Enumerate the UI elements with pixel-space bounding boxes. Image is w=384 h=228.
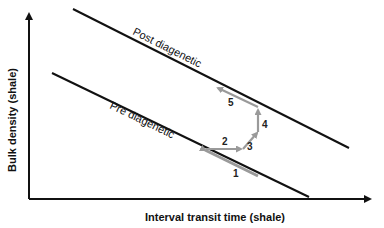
step-5-arrow [218, 88, 258, 107]
step-3-label: 3 [247, 141, 253, 152]
step-1-label: 1 [233, 168, 239, 179]
pre-diagenetic-line [52, 73, 309, 197]
y-axis-title: Bulk density (shale) [6, 68, 18, 172]
post-diagenetic-label: Post diagenetic [131, 25, 204, 70]
step-5-label: 5 [228, 97, 234, 108]
step-4-label: 4 [262, 119, 268, 130]
pre-diagenetic-label: Pre diagenetic [108, 99, 177, 141]
step-1-arrow [205, 150, 258, 176]
post-diagenetic-line [73, 9, 349, 148]
diagenesis-diagram: Post diagenetic Pre diagenetic 1 2 3 4 5… [0, 0, 384, 228]
x-axis-title: Interval transit time (shale) [145, 211, 285, 223]
step-2-label: 2 [222, 136, 228, 147]
